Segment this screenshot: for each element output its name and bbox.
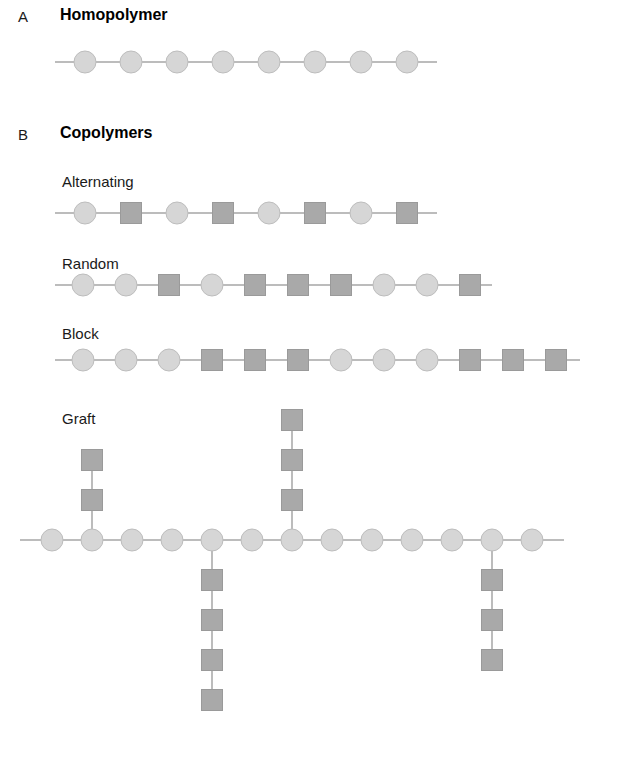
monomer-circle [350,202,372,224]
panel-b-title: Copolymers [60,124,152,142]
monomer-square [288,275,309,296]
monomer-circle [161,529,183,551]
monomer-circle [74,51,96,73]
random-chain-diagram [55,265,535,305]
graft-chain-diagram [20,398,630,760]
monomer-square [245,275,266,296]
monomer-square [397,203,418,224]
monomer-circle [396,51,418,73]
monomer-square [202,570,223,591]
monomer-circle [241,529,263,551]
monomer-square [482,610,503,631]
monomer-circle [158,349,180,371]
monomer-circle [321,529,343,551]
monomer-circle [212,51,234,73]
monomer-circle [441,529,463,551]
monomer-circle [74,202,96,224]
monomer-circle [120,51,142,73]
monomer-circle [72,274,94,296]
monomer-circle [373,349,395,371]
monomer-circle [115,274,137,296]
monomer-circle [401,529,423,551]
alternating-chain-diagram [55,193,475,233]
monomer-circle [201,529,223,551]
monomer-square [503,350,524,371]
monomer-square [213,203,234,224]
monomer-circle [115,349,137,371]
homopolymer-chain-diagram [55,42,475,82]
monomer-circle [330,349,352,371]
monomer-square [482,650,503,671]
monomer-square [460,275,481,296]
monomer-circle [81,529,103,551]
monomer-circle [258,51,280,73]
monomer-square [282,450,303,471]
monomer-circle [361,529,383,551]
monomer-circle [72,349,94,371]
monomer-square [82,450,103,471]
monomer-square [82,490,103,511]
monomer-circle [304,51,326,73]
monomer-circle [41,529,63,551]
panel-a-letter: A [18,8,28,25]
monomer-square [202,690,223,711]
monomer-square [121,203,142,224]
alternating-label: Alternating [62,173,134,190]
monomer-circle [201,274,223,296]
monomer-square [202,350,223,371]
monomer-square [331,275,352,296]
monomer-square [159,275,180,296]
monomer-square [288,350,309,371]
monomer-circle [416,349,438,371]
monomer-circle [258,202,280,224]
panel-b-letter: B [18,126,28,143]
monomer-circle [166,51,188,73]
block-chain-diagram [55,340,615,380]
monomer-circle [416,274,438,296]
monomer-circle [373,274,395,296]
panel-a-title: Homopolymer [60,6,168,24]
monomer-circle [521,529,543,551]
monomer-circle [166,202,188,224]
monomer-circle [121,529,143,551]
monomer-square [245,350,266,371]
monomer-circle [481,529,503,551]
monomer-square [546,350,567,371]
monomer-square [202,610,223,631]
monomer-square [282,490,303,511]
monomer-circle [281,529,303,551]
monomer-square [305,203,326,224]
monomer-square [282,410,303,431]
monomer-circle [350,51,372,73]
monomer-square [202,650,223,671]
monomer-square [460,350,481,371]
monomer-square [482,570,503,591]
